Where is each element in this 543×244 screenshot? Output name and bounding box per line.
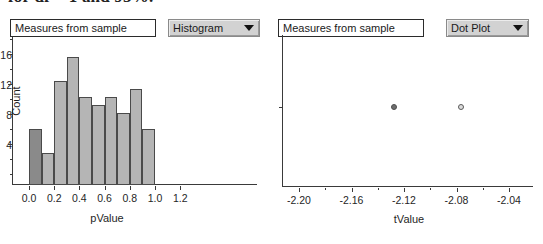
histogram-bar-2[interactable]: [54, 81, 67, 185]
histogram-bar-9[interactable]: [142, 129, 155, 185]
histogram-bar-6[interactable]: [105, 97, 118, 185]
histogram-ytick-mark-4: [8, 144, 12, 145]
histogram-xtick-mark-1: [54, 186, 55, 190]
dotplot-point-1[interactable]: [458, 104, 464, 110]
histogram-ytick-minor: [10, 39, 12, 40]
histogram-bars-area: [13, 37, 257, 185]
dotplot-x-axis-title: tValue: [374, 213, 444, 225]
dotplot-xtick-mark-2: [404, 188, 405, 192]
histogram-bar-7[interactable]: [117, 113, 130, 185]
histogram-ytick-minor: [10, 174, 12, 175]
dotplot-xtick-2: -2.12: [384, 194, 424, 206]
histogram-title-box[interactable]: Measures from sample: [10, 19, 156, 37]
histogram-ytick-4: 4: [0, 139, 12, 151]
dotplot-xtick-1: -2.16: [332, 194, 372, 206]
dotplot-plot-type-value: Dot Plot: [451, 20, 490, 36]
histogram-xtick-mark-5: [155, 186, 156, 190]
dotplot-points-area: [283, 35, 533, 187]
dotplot-xtick-minor: [325, 188, 326, 190]
histogram-ytick-mark-16: [8, 54, 12, 55]
dotplot-panel: Measures from sample Dot Plot -2.20 -2.1…: [274, 17, 541, 239]
histogram-xtick-mark-2: [79, 186, 80, 190]
histogram-bar-8[interactable]: [130, 89, 143, 185]
dotplot-xtick-mark-0: [299, 188, 300, 192]
histogram-plot-type-value: Histogram: [173, 20, 223, 36]
dotplot-point-0[interactable]: [391, 104, 397, 110]
histogram-bar-3[interactable]: [67, 57, 80, 186]
dotplot-xtick-0: -2.20: [279, 194, 319, 206]
histogram-ytick-16: 16: [0, 49, 12, 61]
chevron-down-icon: [513, 25, 523, 31]
caption-text: for df = 1 and 95%.: [8, 0, 153, 7]
histogram-bar-5[interactable]: [92, 105, 105, 185]
chevron-down-icon: [244, 25, 254, 31]
dotplot-xtick-minor: [483, 188, 484, 190]
histogram-xtick-mark-3: [105, 186, 106, 190]
dotplot-xtick-mark-4: [509, 188, 510, 192]
dotplot-xtick-4: -2.04: [489, 194, 529, 206]
dotplot-xtick-mark-1: [352, 188, 353, 192]
histogram-xtick-mark-6: [180, 186, 181, 190]
dotplot-xtick-minor: [378, 188, 379, 190]
histogram-xtick-mark-4: [130, 186, 131, 190]
histogram-xtick-mark-0: [29, 186, 30, 190]
histogram-title-label: Measures from sample: [15, 22, 127, 34]
histogram-bar-1[interactable]: [42, 153, 55, 185]
histogram-x-axis-title: pValue: [72, 212, 142, 224]
histogram-plot-type-select[interactable]: Histogram: [168, 19, 260, 37]
dotplot-xtick-3: -2.08: [437, 194, 477, 206]
dotplot-title-label: Measures from sample: [283, 22, 395, 34]
histogram-panel: Measures from sample Histogram 16 12 8 4…: [2, 17, 268, 239]
histogram-ytick-minor: [10, 159, 12, 160]
histogram-bar-4[interactable]: [79, 97, 92, 185]
caption-strip: for df = 1 and 95%.: [0, 0, 543, 14]
histogram-xtick-6: 1.2: [163, 192, 197, 204]
dotplot-xtick-mark-3: [457, 188, 458, 192]
dotplot-xtick-minor: [430, 188, 431, 190]
histogram-bar-0[interactable]: [29, 129, 42, 185]
histogram-ytick-minor: [10, 69, 12, 70]
